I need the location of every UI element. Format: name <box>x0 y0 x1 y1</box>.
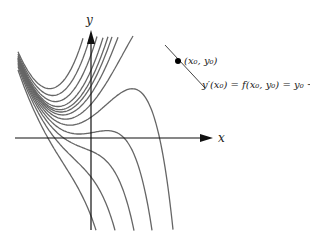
y-axis-label: y <box>85 13 93 27</box>
y-axis-arrow-icon <box>87 30 95 44</box>
solution-curves <box>18 36 173 231</box>
x-axis-label: x <box>218 131 225 145</box>
equation-label: y′(x₀) = f(x₀, y₀) = y₀ − x₀² <box>201 79 310 90</box>
x-axis-arrow-icon <box>200 134 213 142</box>
point-x0-y0 <box>175 58 181 64</box>
solution-curves-diagram: x y (x₀, y₀) y′(x₀) = f(x₀, y₀) = y₀ − x… <box>0 0 310 240</box>
point-label: (x₀, y₀) <box>184 55 218 66</box>
tangent-line <box>165 45 205 88</box>
